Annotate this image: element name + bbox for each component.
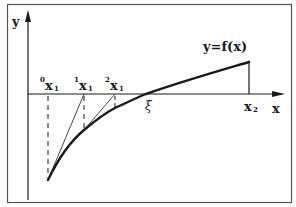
svg-text:x: x xyxy=(45,78,53,93)
svg-text:2: 2 xyxy=(253,105,258,114)
y-axis-label: y xyxy=(11,14,20,29)
point-label-2x1: 2 x 1 xyxy=(105,75,124,93)
x-axis-arrow-icon xyxy=(272,91,285,97)
newton-method-figure: y x y=f(x) ξ 0 x 1 1 x 1 2 x 1 x 2 xyxy=(0,0,296,207)
svg-text:x: x xyxy=(244,99,252,114)
svg-text:1: 1 xyxy=(88,84,93,93)
point-label-x2: x 2 xyxy=(244,99,258,114)
svg-text:x: x xyxy=(110,78,118,93)
svg-text:1: 1 xyxy=(54,84,59,93)
x-axis-label: x xyxy=(272,101,280,116)
tangent-line-2 xyxy=(84,94,115,130)
point-label-0x1: 0 x 1 xyxy=(40,75,59,93)
svg-text:x: x xyxy=(79,78,87,93)
point-label-1x1: 1 x 1 xyxy=(74,75,93,93)
root-label: ξ xyxy=(145,99,153,113)
y-axis-arrow-icon xyxy=(25,10,31,22)
function-label: y=f(x) xyxy=(202,39,247,54)
svg-text:1: 1 xyxy=(119,84,124,93)
